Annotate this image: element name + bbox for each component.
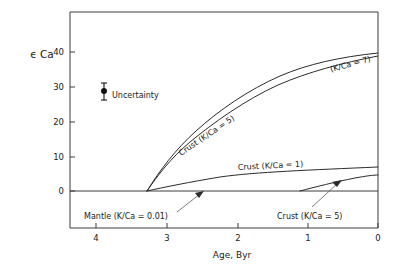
mantle-annotation: Mantle (K/Ca = 0.01) [84,191,204,221]
y-tick-label-40: 40 [53,47,64,57]
x-axis-title: Age, Byr [213,250,252,260]
crust-kca-5-lower-annotation: Crust (K/Ca = 5) [277,180,342,221]
curve-label-kca-7: (K/Ca = 7) [329,54,371,73]
y-tick-label-10: 10 [53,152,64,162]
y-tick-label-0: 0 [59,186,64,196]
y-axis-ticks [70,52,75,191]
x-tick-label-2: 2 [235,233,240,243]
y-tick-label-30: 30 [53,82,64,92]
y-axis-title: ϵ Ca [30,48,54,60]
crust-kca-5-lower-leader-arrowhead [332,180,342,187]
epsilon-ca-vs-age-chart: 40 30 20 10 0 ϵ Ca 4 3 2 1 0 Age, Byr [0,0,407,266]
uncertainty-label: Uncertainty [112,91,159,100]
x-tick-label-0: 0 [375,233,380,243]
x-axis-ticks [96,223,378,228]
figure-container: 40 30 20 10 0 ϵ Ca 4 3 2 1 0 Age, Byr [0,0,407,266]
curve-label-crust-kca-5-main: Crust (K/Ca = 5) [177,114,236,158]
x-axis-tick-labels: 4 3 2 1 0 [93,233,380,243]
x-tick-label-1: 1 [305,233,310,243]
x-tick-label-3: 3 [164,233,169,243]
curve-label-crust-kca-1: Crust (K/Ca = 1) [238,160,304,172]
y-tick-label-20: 20 [53,117,64,127]
x-tick-label-4: 4 [93,233,98,243]
uncertainty-marker [101,83,107,100]
crust-kca-5-lower-label: Crust (K/Ca = 5) [277,212,342,221]
curve-crust-kca-5-main [147,56,378,191]
mantle-leader-line [177,194,200,212]
y-axis-tick-labels: 40 30 20 10 0 [53,47,64,196]
mantle-label: Mantle (K/Ca = 0.01) [84,212,168,221]
uncertainty-datapoint-dot [101,88,107,94]
